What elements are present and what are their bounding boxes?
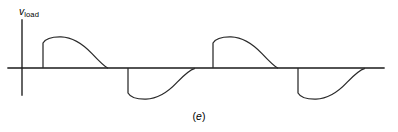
- positive-half-cycle-2: [213, 37, 278, 69]
- caption-suffix: ): [202, 110, 206, 122]
- waveform-figure: vload (e): [0, 0, 398, 132]
- negative-half-cycle-2: [298, 68, 365, 99]
- y-axis-label: vload: [19, 6, 39, 17]
- positive-half-cycle-1: [43, 37, 108, 69]
- y-axis-label-subscript: load: [24, 10, 39, 19]
- figure-caption: (e): [0, 110, 398, 122]
- negative-half-cycle-1: [128, 68, 195, 99]
